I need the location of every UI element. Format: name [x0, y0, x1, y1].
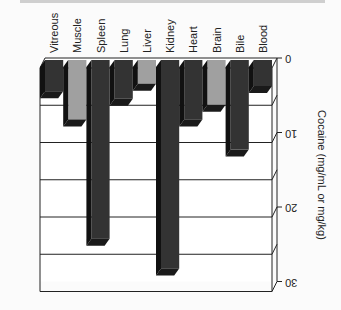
- category-label: Muscle: [71, 18, 83, 53]
- category-label: Vitreous: [48, 12, 60, 53]
- y-tick-label: 20: [285, 202, 297, 214]
- category-label: Brain: [211, 27, 223, 53]
- category-label: Bile: [234, 35, 246, 53]
- y-tick-label: 10: [285, 128, 297, 140]
- bar-spleen: [86, 60, 109, 246]
- bar-chart: VitreousMuscleSpleenLungLiverKidneyHeart…: [0, 0, 341, 310]
- y-axis-title: Cocaine (mg/mL or mg/kg): [316, 110, 328, 240]
- bar-bile: [226, 60, 249, 156]
- y-tick-label: 30: [285, 277, 297, 289]
- category-label: Blood: [257, 25, 269, 53]
- category-label: Liver: [141, 29, 153, 53]
- bar-heart: [179, 60, 202, 127]
- category-label: Lung: [118, 29, 130, 53]
- bar-blood: [249, 60, 272, 93]
- category-label: Kidney: [164, 19, 176, 53]
- bar-kidney: [156, 60, 179, 276]
- category-label: Heart: [187, 26, 199, 53]
- bar-muscle: [63, 60, 86, 127]
- category-label: Spleen: [95, 19, 107, 53]
- bar-lung: [110, 60, 133, 106]
- bar-brain: [202, 60, 225, 112]
- y-tick-label: 0: [285, 53, 291, 65]
- bar-vitreous: [40, 60, 63, 98]
- bar-liver: [133, 60, 156, 91]
